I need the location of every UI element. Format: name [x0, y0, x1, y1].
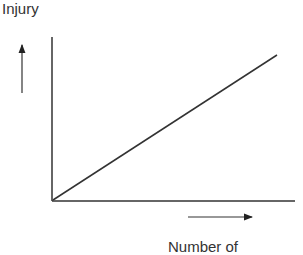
data-line	[53, 55, 277, 200]
x-axis-label: Number of	[168, 238, 238, 255]
